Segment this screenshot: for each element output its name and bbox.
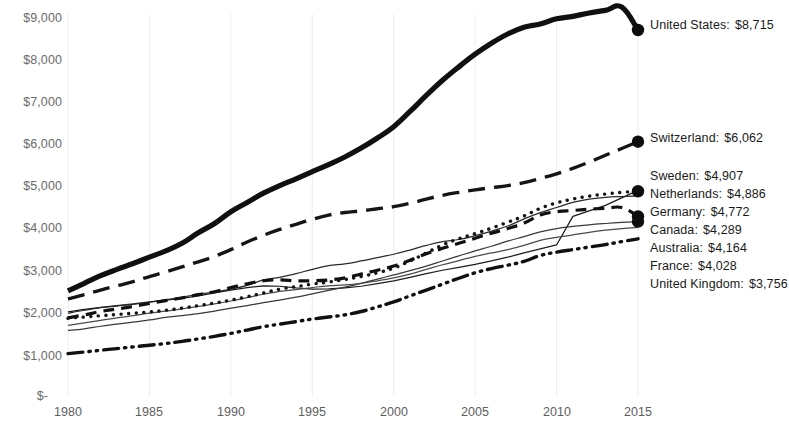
- series-label-name: Australia:: [650, 241, 703, 255]
- series-label-united-states: United States:$8,715: [650, 18, 774, 32]
- series-label-name: Germany:: [650, 205, 706, 219]
- series-label-name: Sweden:: [650, 169, 699, 183]
- series-label-name: Canada:: [650, 223, 698, 237]
- series-label-france: France:$4,028: [650, 259, 737, 273]
- series-label-value: $4,886: [727, 187, 766, 201]
- series-label-united-kingdom: United Kingdom:$3,756: [650, 277, 788, 291]
- series-label-name: Netherlands:: [650, 187, 722, 201]
- series-label-name: France:: [650, 259, 693, 273]
- series-label-list: United States:$8,715Switzerland:$6,062Sw…: [0, 0, 789, 427]
- series-label-value: $6,062: [724, 131, 763, 145]
- series-label-value: $3,756: [749, 277, 788, 291]
- series-label-value: $4,772: [711, 205, 750, 219]
- series-label-value: $8,715: [735, 18, 774, 32]
- series-label-name: United States:: [650, 18, 730, 32]
- series-label-germany: Germany:$4,772: [650, 205, 750, 219]
- series-label-australia: Australia:$4,164: [650, 241, 747, 255]
- series-label-value: $4,907: [704, 169, 743, 183]
- series-label-value: $4,289: [703, 223, 742, 237]
- series-label-value: $4,164: [708, 241, 747, 255]
- series-label-name: Switzerland:: [650, 131, 719, 145]
- line-chart: $9,000 $8,000 $7,000 $6,000 $5,000 $4,00…: [0, 0, 789, 427]
- series-label-name: United Kingdom:: [650, 277, 744, 291]
- series-label-sweden: Sweden:$4,907: [650, 169, 743, 183]
- series-label-netherlands: Netherlands:$4,886: [650, 187, 766, 201]
- series-label-switzerland: Switzerland:$6,062: [650, 131, 763, 145]
- series-label-canada: Canada:$4,289: [650, 223, 742, 237]
- series-label-value: $4,028: [698, 259, 737, 273]
